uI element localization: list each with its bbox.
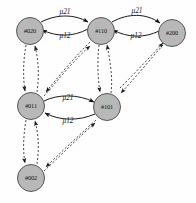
node-group: #020 #110 #200 #011 #101 #002 — [17, 18, 186, 192]
dashed-edge-101-110 — [107, 45, 112, 93]
dashed-edge-101-002 — [46, 120, 96, 167]
node-label-020: #020 — [24, 27, 36, 34]
solid-edge-020-110 — [41, 16, 88, 22]
node-101[interactable]: #101 — [94, 94, 121, 121]
dashed-edge-020-011 — [24, 45, 26, 91]
edge-label-110-200: μ21 — [131, 6, 142, 15]
node-002[interactable]: #002 — [18, 165, 45, 192]
dashed-edge-011-020 — [35, 46, 38, 92]
dashed-edge-011-002 — [24, 120, 26, 163]
node-label-101: #101 — [101, 103, 113, 110]
node-label-002: #002 — [25, 174, 37, 181]
node-011[interactable]: #011 — [18, 93, 45, 120]
dashed-edge-200-101 — [121, 45, 163, 93]
edge-label-200-110: μ12 — [130, 31, 141, 40]
node-020[interactable]: #020 — [17, 18, 44, 45]
edge-label-110-020: μ12 — [59, 31, 70, 40]
diagram-canvas: #020 #110 #200 #011 #101 #002 — [0, 0, 196, 203]
dashed-edge-002-011 — [35, 121, 38, 164]
dashed-edge-110-101 — [98, 45, 100, 92]
node-200[interactable]: #200 — [159, 20, 186, 47]
graph-svg: #020 #110 #200 #011 #101 #002 — [0, 0, 196, 203]
edge-label-011-101: μ21 — [62, 93, 73, 102]
dashed-edge-011-110 — [44, 46, 90, 96]
dashed-edge-002-101 — [44, 123, 95, 171]
dashed-edge-110-011 — [46, 42, 90, 92]
edge-label-020-110: μ21 — [59, 7, 70, 16]
node-label-200: #200 — [166, 29, 178, 36]
node-label-011: #011 — [25, 102, 37, 109]
node-label-110: #110 — [95, 27, 107, 34]
node-110[interactable]: #110 — [88, 18, 115, 45]
dashed-edge-101-200 — [120, 43, 163, 88]
solid-edge-110-200 — [112, 15, 160, 23]
edge-label-101-011: μ12 — [62, 116, 73, 125]
